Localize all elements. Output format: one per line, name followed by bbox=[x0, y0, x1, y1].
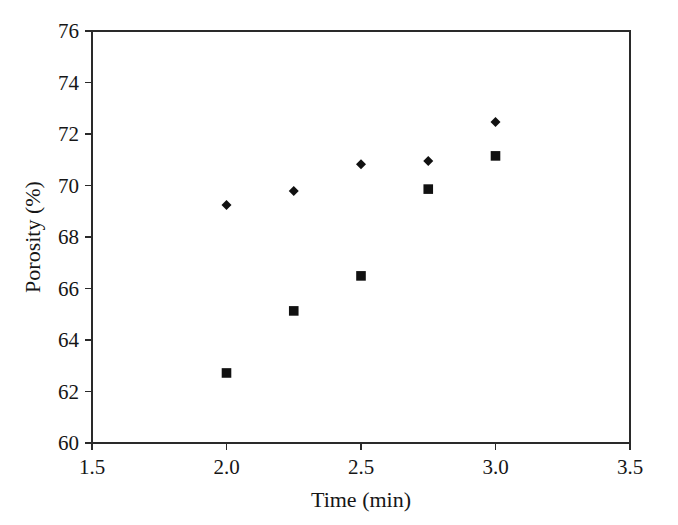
y-tick-label: 60 bbox=[58, 431, 79, 455]
y-axis-title: Porosity (%) bbox=[20, 181, 45, 293]
x-axis-title: Time (min) bbox=[311, 487, 411, 512]
y-tick-label: 74 bbox=[58, 71, 80, 95]
x-tick-label: 1.5 bbox=[79, 455, 105, 479]
data-point-diamond[interactable] bbox=[491, 117, 501, 127]
data-point-diamond[interactable] bbox=[423, 156, 433, 166]
plot-frame bbox=[92, 31, 630, 443]
x-tick-label: 2.5 bbox=[348, 455, 374, 479]
series-diamond bbox=[222, 117, 501, 210]
data-point-diamond[interactable] bbox=[222, 200, 232, 210]
y-tick-label: 66 bbox=[58, 277, 79, 301]
axis-spines bbox=[92, 31, 630, 443]
x-tick-label: 3.5 bbox=[617, 455, 643, 479]
chart-figure: 6062646668707274761.52.02.53.03.5Time (m… bbox=[0, 0, 678, 525]
data-point-square[interactable] bbox=[491, 151, 501, 161]
series-square bbox=[222, 151, 501, 378]
x-tick-label: 2.0 bbox=[213, 455, 239, 479]
y-tick-label: 76 bbox=[58, 19, 79, 43]
data-point-square[interactable] bbox=[289, 306, 299, 316]
y-tick-label: 70 bbox=[58, 174, 79, 198]
data-point-diamond[interactable] bbox=[289, 186, 299, 196]
data-point-square[interactable] bbox=[356, 271, 366, 281]
data-point-square[interactable] bbox=[222, 368, 232, 378]
y-tick-label: 64 bbox=[58, 328, 80, 352]
data-point-diamond[interactable] bbox=[356, 159, 366, 169]
scatter-plot: 6062646668707274761.52.02.53.03.5Time (m… bbox=[0, 0, 678, 525]
y-tick-label: 62 bbox=[58, 380, 79, 404]
y-tick-label: 68 bbox=[58, 225, 79, 249]
y-tick-label: 72 bbox=[58, 122, 79, 146]
data-point-square[interactable] bbox=[423, 184, 433, 194]
x-tick-label: 3.0 bbox=[482, 455, 508, 479]
